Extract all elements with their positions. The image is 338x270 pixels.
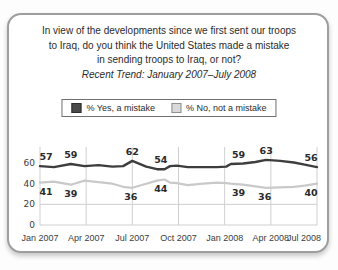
question-line-2: to Iraq, do you think the United States …	[14, 39, 324, 54]
poll-trend-figure: In view of the developments since we fir…	[0, 0, 338, 270]
trend-note: Recent Trend: January 2007–July 2008	[14, 68, 324, 83]
no-series-swatch-icon	[171, 103, 181, 113]
legend-label-no: % No, not a mistake	[186, 103, 267, 113]
question-line-3: in sending troops to Iraq, or not?	[14, 53, 324, 68]
yes-series-swatch-icon	[71, 103, 81, 113]
legend-item-yes: % Yes, a mistake	[71, 103, 155, 113]
question-line-1: In view of the developments since we fir…	[14, 24, 324, 39]
question-text-block: In view of the developments since we fir…	[14, 24, 324, 82]
legend-item-no: % No, not a mistake	[171, 103, 267, 113]
chart-legend: % Yes, a mistake % No, not a mistake	[61, 99, 276, 117]
legend-label-yes: % Yes, a mistake	[86, 103, 155, 113]
